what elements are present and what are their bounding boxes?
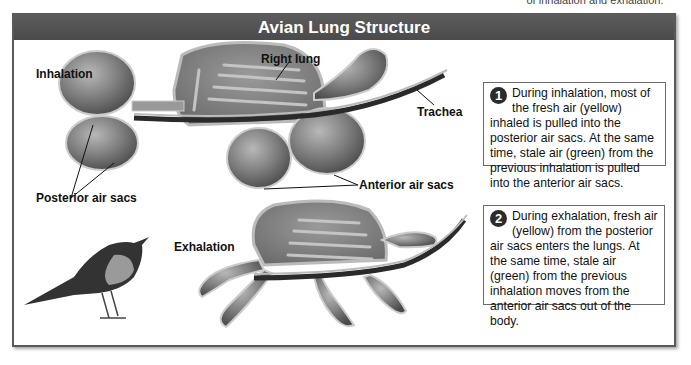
callout-text-1: During inhalation, most of the fresh air…: [490, 86, 654, 190]
figure-panel: Avian Lung Structure: [12, 13, 676, 347]
label-posterior-air-sacs: Posterior air sacs: [36, 191, 137, 205]
callout-exhalation: 2 During exhalation, fresh air (yellow) …: [483, 205, 665, 305]
inhalation-diagram: [59, 43, 447, 198]
label-right-lung: Right lung: [261, 52, 320, 66]
exhalation-diagram: [199, 201, 467, 327]
cut-off-caption: of inhalation and exhalation.: [500, 0, 690, 6]
label-trachea: Trachea: [417, 105, 462, 119]
label-inhalation: Inhalation: [36, 67, 93, 81]
label-anterior-air-sacs: Anterior air sacs: [359, 178, 454, 192]
robin-illustration: [24, 237, 149, 318]
step-number-2: 2: [490, 210, 507, 227]
label-exhalation: Exhalation: [174, 240, 235, 254]
step-number-1: 1: [490, 87, 507, 104]
callout-inhalation: 1 During inhalation, most of the fresh a…: [483, 82, 666, 166]
